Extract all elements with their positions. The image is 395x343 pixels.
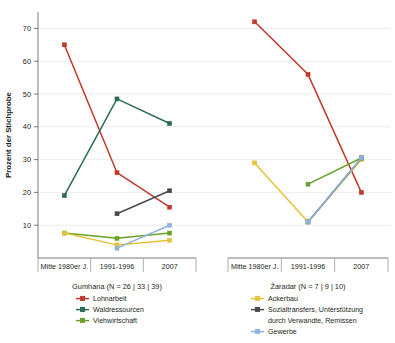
y-axis-title: Prozent der Stichprobe <box>4 91 13 177</box>
data-point-Gumhana-0-2 <box>168 205 172 209</box>
series-line-Žaradar-1 <box>255 160 362 222</box>
legend-legend_right: Žaradar (N = 7 | 9 | 10)AckerbauSozialtr… <box>251 282 363 336</box>
y-tick-label-40: 40 <box>23 122 31 131</box>
x-category-label-0-0: Mitte 1980er J. <box>41 262 89 271</box>
series-group-Žaradar <box>253 20 364 224</box>
data-point-Gumhana-4-1 <box>168 189 172 193</box>
data-point-Gumhana-0-0 <box>62 43 66 47</box>
legend-legend_left: Gumhana (N = 26 | 33 | 39)LohnarbeitWald… <box>72 282 162 325</box>
legend-label-legend_right-2: Gewerbe <box>268 328 297 336</box>
data-point-Žaradar-1-0 <box>253 161 257 165</box>
legend-label-legend_right-1: Sozialtransfers, Unterstützung <box>268 306 363 314</box>
data-point-Gumhana-3-0 <box>62 231 66 235</box>
x-category-label-0-2: 2007 <box>162 262 178 271</box>
series-line-Gumhana-5 <box>117 225 170 248</box>
legend-swatch-marker-legend_right-0 <box>256 296 260 300</box>
data-point-Gumhana-0-1 <box>115 171 119 175</box>
series-line-Žaradar-4 <box>308 158 361 222</box>
series-group-Gumhana <box>62 43 171 250</box>
data-point-Gumhana-1-2 <box>168 122 172 126</box>
legend-label-legend_left-2: Viehwirtschaft <box>93 317 137 325</box>
series-line-Gumhana-1 <box>64 99 169 196</box>
series-line-Žaradar-0 <box>255 22 362 193</box>
data-point-Gumhana-4-0 <box>115 212 119 216</box>
y-tick-label-50: 50 <box>23 90 31 99</box>
data-point-Žaradar-0-1 <box>306 72 310 76</box>
data-point-Žaradar-4-0 <box>306 220 310 224</box>
y-tick-label-20: 20 <box>23 188 31 197</box>
data-point-Žaradar-4-1 <box>359 156 363 160</box>
chart-container: 10203040506070Prozent der StichprobeMitt… <box>0 0 395 343</box>
legend-title-legend_right: Žaradar (N = 7 | 9 | 10) <box>270 282 345 291</box>
data-point-Gumhana-5-1 <box>168 223 172 227</box>
series-line-Žaradar-2 <box>308 158 361 184</box>
x-category-label-1-1: 1991-1996 <box>291 262 325 271</box>
legend-label-legend_left-0: Lohnarbeit <box>93 295 127 303</box>
y-tick-label-10: 10 <box>23 221 31 230</box>
x-category-label-1-2: 2007 <box>353 262 369 271</box>
legend-label-legend_left-1: Waldressourcen <box>93 306 144 314</box>
data-point-Gumhana-2-1 <box>115 236 119 240</box>
data-point-Žaradar-0-2 <box>359 190 363 194</box>
line-chart: 10203040506070Prozent der StichprobeMitt… <box>0 0 395 343</box>
legend-swatch-marker-legend_left-0 <box>81 296 85 300</box>
data-point-Gumhana-1-0 <box>62 194 66 198</box>
y-tick-label-60: 60 <box>23 57 31 66</box>
legend-swatch-marker-legend_left-2 <box>81 318 85 322</box>
data-point-Žaradar-0-0 <box>253 20 257 24</box>
x-category-label-0-1: 1991-1996 <box>100 262 134 271</box>
legend-swatch-marker-legend_right-1 <box>256 307 260 311</box>
legend-swatch-marker-legend_left-1 <box>81 307 85 311</box>
data-point-Gumhana-2-2 <box>168 231 172 235</box>
legend-title-legend_left: Gumhana (N = 26 | 33 | 39) <box>72 282 162 291</box>
y-tick-label-30: 30 <box>23 155 31 164</box>
y-tick-label-70: 70 <box>23 24 31 33</box>
data-point-Gumhana-3-2 <box>168 238 172 242</box>
legend-label2-legend_right-1: durch Verwandte, Remissen <box>268 317 357 325</box>
data-point-Žaradar-2-0 <box>306 182 310 186</box>
data-point-Gumhana-1-1 <box>115 97 119 101</box>
legend-swatch-marker-legend_right-2 <box>256 329 260 333</box>
x-category-label-1-0: Mitte 1980er J. <box>231 262 279 271</box>
series-line-Gumhana-0 <box>64 45 169 207</box>
data-point-Gumhana-5-0 <box>115 246 119 250</box>
legend-label-legend_right-0: Ackerbau <box>268 295 298 303</box>
